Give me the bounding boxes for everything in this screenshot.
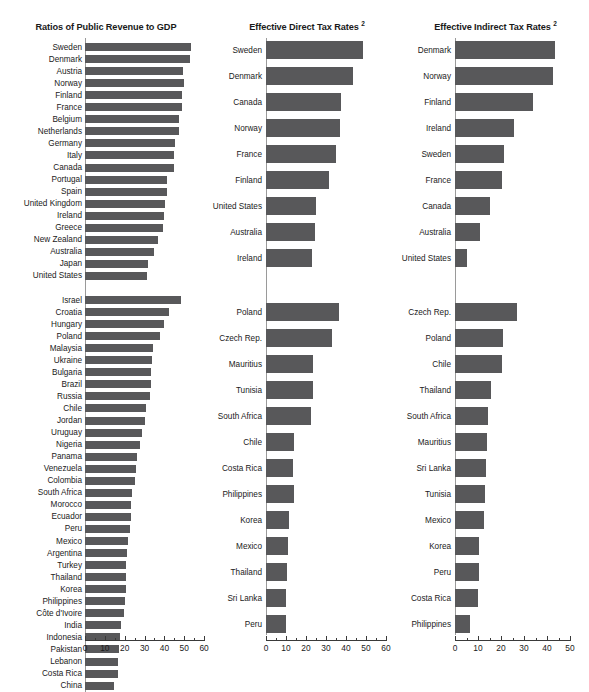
bar-label: Korea (429, 542, 451, 551)
bar (85, 260, 148, 268)
bar-label: Korea (240, 516, 262, 525)
bar-label: France (426, 176, 451, 185)
bar (455, 171, 502, 189)
bar (266, 589, 286, 607)
bar (85, 441, 140, 449)
x-tick-major (455, 636, 456, 640)
chart-panel-direct-tax: Effective Direct Tax Rates 2 SwedenDenma… (212, 0, 402, 683)
bar (85, 344, 153, 352)
bar (455, 119, 514, 137)
bar (85, 429, 142, 437)
bar-label: Finland (235, 176, 262, 185)
bar (85, 332, 160, 340)
bar-label: Croatia (56, 308, 82, 317)
bar-label: Canada (422, 202, 451, 211)
bar-label: Japan (60, 259, 82, 268)
bar (455, 223, 480, 241)
bar (455, 249, 467, 267)
bar (85, 79, 184, 87)
bar-label: Costa Rica (42, 669, 82, 678)
bar-label: China (61, 681, 82, 690)
x-tick-minor (490, 638, 491, 641)
bar (85, 609, 124, 617)
bar (266, 381, 313, 399)
bar-label: Mauritius (229, 360, 262, 369)
bar (85, 356, 152, 364)
x-tick-major (478, 636, 479, 640)
bar (266, 615, 286, 633)
bar-label: Australia (419, 228, 451, 237)
bar (85, 308, 169, 316)
bar-label: Thailand (420, 386, 451, 395)
bar-label: Brazil (62, 380, 82, 389)
x-tick-minor (559, 638, 560, 641)
plot-area-1: SwedenDenmarkAustriaNorwayFinlandFranceB… (0, 38, 212, 638)
bar-label: Sweden (232, 46, 262, 55)
bar (85, 296, 181, 304)
bar (85, 513, 131, 521)
bar-label: Mauritius (418, 438, 451, 447)
bar-label: Côte d'Ivoire (36, 609, 82, 618)
bar (455, 381, 491, 399)
bar-label: Ukraine (54, 356, 82, 365)
bar (455, 197, 490, 215)
x-axis-line (455, 640, 571, 641)
bar (266, 459, 293, 477)
bar-label: United States (402, 254, 451, 263)
x-tick-minor (296, 638, 297, 641)
chart-title-3-superscript: 2 (553, 20, 557, 27)
x-tick-minor (336, 638, 337, 641)
bar (455, 615, 470, 633)
x-tick-major (326, 636, 327, 640)
bar (266, 41, 363, 59)
bar (85, 91, 182, 99)
bar (455, 511, 484, 529)
bar-label: Spain (61, 187, 82, 196)
bar-label: Ireland (426, 124, 451, 133)
x-tick-major (346, 636, 347, 640)
plot-area-2: SwedenDenmarkCanadaNorwayFranceFinlandUn… (212, 38, 402, 638)
bar-label: Russia (57, 392, 82, 401)
bar (85, 188, 167, 196)
bar-label: Costa Rica (222, 464, 262, 473)
x-tick-label: 10 (281, 644, 290, 653)
bar-label: Peru (65, 524, 82, 533)
bar-label: Mexico (56, 537, 82, 546)
bar (85, 573, 126, 581)
bar-label: Colombia (47, 476, 82, 485)
x-tick-minor (316, 638, 317, 641)
x-tick-label: 10 (473, 644, 482, 653)
bar-label: Chile (63, 404, 82, 413)
bar-label: Norway (234, 124, 262, 133)
bar (455, 41, 555, 59)
bar-label: Norway (54, 79, 82, 88)
x-tick-major (145, 636, 146, 640)
bar-label: Malaysia (50, 344, 82, 353)
x-tick-major (524, 636, 525, 640)
bar (85, 200, 165, 208)
bar-label: Nigeria (56, 440, 82, 449)
chart-title-1-text: Ratios of Public Revenue to GDP (36, 22, 177, 32)
bar-label: Denmark (418, 46, 451, 55)
bar-label: Argentina (47, 549, 82, 558)
bar-label: United Kingdom (24, 199, 82, 208)
bar-label: Philippines (42, 597, 82, 606)
bar (85, 670, 118, 678)
bar-label: Chile (432, 360, 451, 369)
bar (455, 145, 504, 163)
x-tick-label: 50 (361, 644, 370, 653)
bar (455, 93, 533, 111)
bar (85, 477, 135, 485)
bar (455, 67, 553, 85)
x-tick-minor (376, 638, 377, 641)
bar-label: Peru (434, 568, 451, 577)
bar-label: Finland (55, 91, 82, 100)
bar-label: India (64, 621, 82, 630)
x-tick-major (184, 636, 185, 640)
bar (85, 597, 125, 605)
x-axis-line (85, 640, 205, 641)
bar-label: Jordan (57, 416, 82, 425)
bar-label: Netherlands (38, 127, 82, 136)
bar-label: Ecuador (52, 512, 83, 521)
bar (85, 164, 174, 172)
